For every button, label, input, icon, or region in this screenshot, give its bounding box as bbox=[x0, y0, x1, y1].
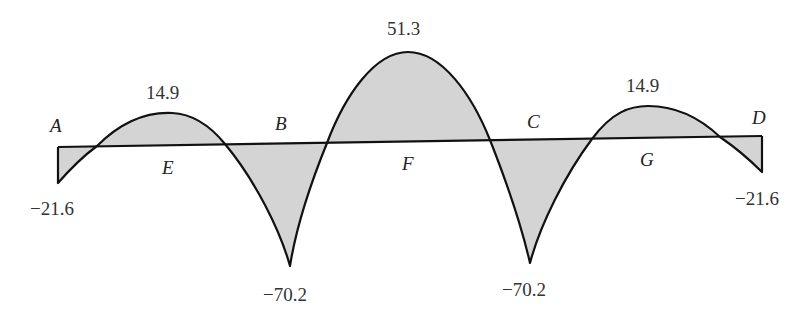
value-label-a-end: −21.6 bbox=[30, 198, 74, 219]
point-label-g: G bbox=[640, 149, 654, 170]
value-label-f-peak: 51.3 bbox=[387, 18, 420, 39]
point-label-d: D bbox=[751, 107, 766, 128]
bending-moment-diagram: A E B F C G D −21.6 14.9 −70.2 51.3 −70.… bbox=[0, 0, 809, 312]
point-label-f: F bbox=[401, 153, 414, 174]
region-f-positive bbox=[327, 52, 490, 143]
value-label-c-trough: −70.2 bbox=[502, 279, 546, 300]
value-label-g-peak: 14.9 bbox=[626, 75, 659, 96]
point-label-a: A bbox=[48, 115, 62, 136]
region-c-negative bbox=[490, 139, 592, 263]
point-label-c: C bbox=[527, 111, 540, 132]
point-label-b: B bbox=[275, 113, 287, 134]
value-label-e-peak: 14.9 bbox=[146, 82, 179, 103]
value-label-b-trough: −70.2 bbox=[263, 284, 307, 305]
region-b-negative bbox=[225, 143, 327, 266]
value-label-d-end: −21.6 bbox=[735, 188, 779, 209]
point-label-e: E bbox=[161, 157, 174, 178]
